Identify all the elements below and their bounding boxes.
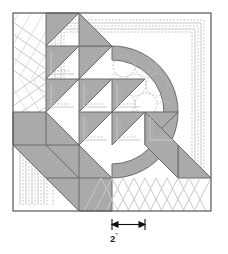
dimension-arrow bbox=[112, 219, 145, 230]
quilt-block-svg bbox=[0, 0, 228, 254]
quilt-block-diagram: 2" bbox=[0, 0, 228, 254]
